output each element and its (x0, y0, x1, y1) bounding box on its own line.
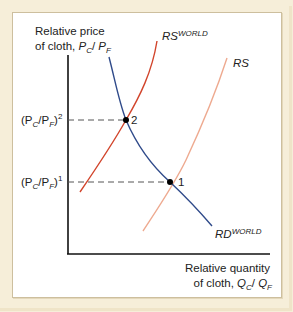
rs-curve (143, 58, 227, 231)
equilibrium-point-1 (167, 179, 173, 185)
x-axis-title-line1: Relative quantity (185, 262, 270, 274)
x-axis-title-line2: of cloth, QC/ QF (194, 277, 274, 292)
y-axis-title-line2: of cloth, PC/ PF (35, 40, 112, 55)
price-level-1-label: (PC/PF)1 (21, 174, 63, 191)
point-2-label: 2 (131, 114, 137, 126)
price-level-2-label: (PC/PF)2 (21, 112, 63, 129)
rs-world-curve (80, 41, 157, 192)
rs-world-label: RSWORLD (162, 29, 208, 42)
equilibrium-point-2 (123, 117, 129, 123)
rs-label: RS (233, 57, 249, 69)
rd-world-curve (109, 57, 212, 226)
supply-demand-diagram: 2 1 Relative price of cloth, PC/ PF (PC/… (0, 0, 293, 312)
rd-world-label: RDWORLD (215, 227, 262, 240)
point-1-label: 1 (178, 176, 184, 188)
y-axis-title-line1: Relative price (35, 25, 105, 37)
